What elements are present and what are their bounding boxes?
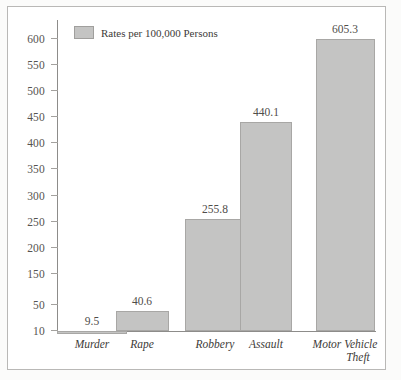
y-tick-label: 500 <box>27 85 45 97</box>
y-tick-mark <box>51 142 58 143</box>
y-tick-mark <box>51 304 58 305</box>
y-tick-mark <box>51 273 58 274</box>
legend-swatch-icon <box>74 26 94 39</box>
bar <box>116 311 169 331</box>
bar-value-label: 440.1 <box>253 106 279 118</box>
y-tick-mark <box>51 221 58 222</box>
category-label: Motor VehicleTheft <box>306 338 384 364</box>
category-label: Assault <box>249 338 283 351</box>
category-label: Rape <box>130 338 154 351</box>
category-label: Murder <box>75 338 110 351</box>
y-tick-mark <box>51 90 58 91</box>
bar-value-label: 40.6 <box>132 295 152 307</box>
legend-label: Rates per 100,000 Persons <box>101 27 218 39</box>
y-tick-label: 50 <box>33 299 45 311</box>
y-tick-label: 300 <box>27 190 45 202</box>
y-tick-mark <box>51 168 58 169</box>
chart-figure: 6005505004504003503002502001505010 9.540… <box>0 0 401 380</box>
y-tick-label: 250 <box>27 216 45 228</box>
category-label-line2: Theft <box>306 351 384 364</box>
y-tick-mark <box>51 38 58 39</box>
bar <box>240 122 292 331</box>
y-tick-mark <box>51 195 58 196</box>
y-tick-mark <box>51 116 58 117</box>
bar-value-label: 605.3 <box>332 23 358 35</box>
y-tick-mark <box>51 247 58 248</box>
y-axis-line <box>57 20 58 332</box>
bar <box>185 219 245 331</box>
bar-value-label: 9.5 <box>85 315 99 327</box>
legend: Rates per 100,000 Persons <box>74 26 218 39</box>
y-tick-label: 600 <box>27 33 45 45</box>
bar <box>316 39 375 331</box>
y-tick-mark <box>51 64 58 65</box>
bar-value-label: 255.8 <box>202 203 228 215</box>
y-tick-label: 400 <box>27 137 45 149</box>
y-tick-label: 450 <box>27 111 45 123</box>
y-tick-label: 350 <box>27 163 45 175</box>
y-tick-label: 200 <box>27 242 45 254</box>
category-label-line1: Motor Vehicle <box>306 338 384 351</box>
bar <box>57 331 127 334</box>
y-tick-label: 10 <box>33 325 45 337</box>
y-tick-label: 550 <box>27 59 45 71</box>
y-tick-label: 150 <box>27 268 45 280</box>
category-label: Robbery <box>196 338 235 351</box>
